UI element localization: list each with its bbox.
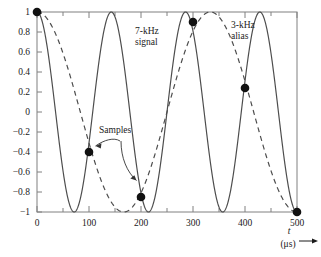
y-axis-tick-labels: 10.80.60.40.20−0.2−0.4−0.6−0.8−1 [13, 7, 30, 217]
y-tick-label: −0.8 [13, 187, 30, 197]
sample-point [241, 84, 250, 93]
x-axis-arrow [299, 238, 318, 243]
sample-point [137, 193, 146, 202]
sample-point [85, 148, 94, 157]
samples-label: Samples [99, 125, 131, 135]
y-tick-label: 0.4 [18, 67, 30, 77]
x-tick-label: 0 [35, 218, 40, 228]
signal-label-line2: signal [135, 37, 158, 47]
alias-label-line1: 3-kHz [231, 20, 255, 30]
x-axis-unit: (μs) [280, 239, 295, 250]
sample-point [33, 8, 42, 17]
signal-label-line1: 7-kHz [135, 26, 159, 36]
y-tick-label: 0 [25, 107, 30, 117]
samples-arrow-right-head [130, 175, 136, 180]
y-tick-label: 1 [25, 7, 30, 17]
y-tick-label: 0.8 [18, 27, 30, 37]
x-axis-title: t [288, 226, 291, 236]
signal-curve-7khz [37, 12, 297, 212]
sample-point [189, 18, 198, 27]
samples-annotation-arrows [96, 139, 137, 180]
y-tick-label: −0.4 [13, 147, 30, 157]
y-tick-label: −0.2 [13, 127, 30, 137]
y-tick-label: −0.6 [13, 167, 30, 177]
x-tick-label: 500 [290, 218, 305, 228]
aliasing-chart: 10.80.60.40.20−0.2−0.4−0.6−0.8−1 0100200… [0, 0, 321, 257]
y-tick-label: 0.2 [18, 87, 30, 97]
sample-point [293, 208, 302, 217]
x-tick-label: 400 [238, 218, 253, 228]
y-tick-label: −1 [20, 207, 30, 217]
x-tick-label: 300 [186, 218, 201, 228]
x-tick-label: 100 [82, 218, 97, 228]
x-axis-tick-labels: 0100200300400500 [35, 218, 305, 228]
y-axis-ticks [37, 12, 42, 212]
figure-container: 10.80.60.40.20−0.2−0.4−0.6−0.8−1 0100200… [0, 0, 321, 257]
y-tick-label: 0.6 [18, 47, 30, 57]
alias-label-line2: alias [231, 31, 249, 41]
x-tick-label: 200 [134, 218, 149, 228]
